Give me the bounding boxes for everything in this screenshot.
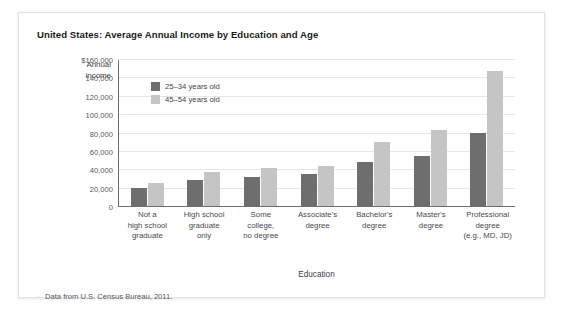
plot-area: $160,000140,000120,000100,00080,00060,00… [118,60,515,207]
bar-1[interactable] [261,168,277,206]
legend-label: 45–54 years old [165,95,220,104]
bar-1[interactable] [204,172,220,206]
bar-1[interactable] [148,183,164,206]
figure-footnote: Data from U.S. Census Bureau, 2011. [45,292,172,301]
category-label-line: only [176,231,233,242]
footnote-bullet: · [37,293,39,300]
category-label-line: Some [232,210,289,221]
category-label-line: degree [346,221,403,232]
legend-item[interactable]: 25–34 years old [151,80,220,93]
category-label: Somecollege,no degree [232,210,289,242]
bar-0[interactable] [187,180,203,206]
category-label-line: Master's [403,210,460,221]
category-label-line: Professional [459,210,516,221]
category-label: Professionaldegree(e.g., MD, JD) [459,210,516,242]
figure-title: United States: Average Annual Income by … [37,29,318,40]
y-tick-label: 120,000 [86,92,113,101]
category-label-line: degree [289,221,346,232]
chart-legend: 25–34 years old45–54 years old [151,80,220,106]
bar-group [289,60,346,206]
y-tick-label: 100,000 [86,111,113,120]
x-category-labels: Not ahigh schoolgraduateHigh schoolgradu… [119,210,516,242]
bar-1[interactable] [318,166,334,206]
y-tick-label: 140,000 [86,74,113,83]
bar-group [232,60,289,206]
bar-0[interactable] [414,156,430,206]
category-label-line: (e.g., MD, JD) [459,231,516,242]
bar-0[interactable] [131,188,147,206]
category-label: Associate'sdegree [289,210,346,242]
plot-inner: $160,000140,000120,000100,00080,00060,00… [118,60,515,207]
x-axis-title: Education [118,270,515,279]
category-label: High schoolgraduateonly [176,210,233,242]
category-label-line: high school [119,221,176,232]
category-label-line: degree [403,221,460,232]
bar-group [402,60,459,206]
y-tick-label: 40,000 [90,166,113,175]
legend-label: 25–34 years old [165,82,220,91]
category-label-line: college, [232,221,289,232]
y-tick-label: 0 [109,203,113,212]
bar-0[interactable] [357,162,373,206]
legend-swatch-icon [151,95,160,104]
category-label-line: High school [176,210,233,221]
bar-group [458,60,515,206]
category-label-line: Associate's [289,210,346,221]
y-tick-label: $160,000 [81,56,113,65]
bar-group [345,60,402,206]
category-label-line: Not a [119,210,176,221]
category-label-line: graduate [176,221,233,232]
y-tick-label: 20,000 [90,184,113,193]
figure-card: United States: Average Annual Income by … [18,12,545,298]
bar-1[interactable] [374,142,390,206]
bar-0[interactable] [470,133,486,206]
category-label-line: no degree [232,231,289,242]
bar-1[interactable] [487,71,503,206]
legend-item[interactable]: 45–54 years old [151,93,220,106]
x-axis-line [118,206,515,207]
y-tick-label: 60,000 [90,147,113,156]
category-label: Not ahigh schoolgraduate [119,210,176,242]
category-label: Master'sdegree [403,210,460,242]
bar-0[interactable] [244,177,260,206]
legend-swatch-icon [151,82,160,91]
bar-1[interactable] [431,130,447,206]
category-label-line: graduate [119,231,176,242]
category-label: Bachelor'sdegree [346,210,403,242]
category-label-line: Bachelor's [346,210,403,221]
y-tick-label: 80,000 [90,129,113,138]
category-label-line: degree [459,221,516,232]
bar-0[interactable] [301,174,317,206]
